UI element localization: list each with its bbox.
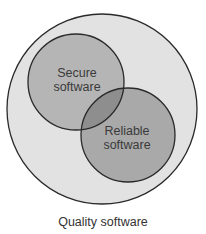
- secure-label-line1: Secure: [57, 66, 97, 80]
- venn-diagram: Secure software Reliable software Qualit…: [0, 0, 206, 234]
- diagram-caption: Quality software: [58, 215, 148, 229]
- reliable-label-line2: software: [103, 138, 150, 152]
- reliable-label-line1: Reliable: [104, 124, 149, 138]
- secure-label-line2: software: [53, 80, 100, 94]
